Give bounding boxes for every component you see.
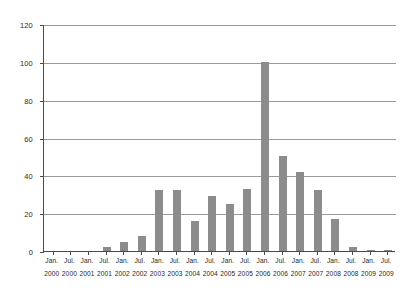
bar xyxy=(243,189,251,251)
bar-slot xyxy=(186,25,204,251)
x-axis-tick xyxy=(387,251,388,255)
bar-slot xyxy=(256,25,274,251)
x-axis-tick-label: Jan.2005 xyxy=(219,256,237,279)
x-label-year: 2002 xyxy=(113,269,131,280)
x-axis-tick-label: Jan.2008 xyxy=(325,256,343,279)
bar xyxy=(367,250,375,251)
x-label-year: 2000 xyxy=(43,269,61,280)
x-axis-tick-label: Jul.2003 xyxy=(166,256,184,279)
x-label-year: 2004 xyxy=(201,269,219,280)
y-axis-tick-label: 40 xyxy=(0,172,33,181)
x-label-year: 2006 xyxy=(272,269,290,280)
bar xyxy=(279,156,287,251)
x-axis-tick-label: Jul.2004 xyxy=(201,256,219,279)
x-label-year: 2007 xyxy=(307,269,325,280)
y-axis-tick xyxy=(40,25,44,26)
bar-slot xyxy=(98,25,116,251)
bar-chart: 020406080100120 Jan.2000Jul.2000Jan.2001… xyxy=(0,0,416,291)
x-label-year: 2005 xyxy=(219,269,237,280)
x-axis-tick-label: Jul.2000 xyxy=(61,256,79,279)
x-axis-tick-label: Jul.2007 xyxy=(307,256,325,279)
bar-slot xyxy=(327,25,345,251)
bar xyxy=(191,221,199,251)
x-label-month: Jan. xyxy=(325,256,343,267)
bar xyxy=(331,219,339,251)
bar xyxy=(261,62,269,251)
y-axis-tick xyxy=(40,139,44,140)
y-axis-tick-label: 0 xyxy=(0,248,33,257)
x-label-month: Jul. xyxy=(377,256,395,267)
x-axis-tick-label: Jul.2006 xyxy=(272,256,290,279)
bar xyxy=(120,242,128,251)
x-axis-labels: Jan.2000Jul.2000Jan.2001Jul.2001Jan.2002… xyxy=(43,256,395,288)
x-label-year: 2008 xyxy=(342,269,360,280)
x-axis-tick xyxy=(141,251,142,255)
x-axis-tick-label: Jan.2002 xyxy=(113,256,131,279)
x-label-month: Jan. xyxy=(113,256,131,267)
x-label-month: Jan. xyxy=(78,256,96,267)
bar xyxy=(138,236,146,251)
bar-slot xyxy=(63,25,81,251)
bar-slot xyxy=(133,25,151,251)
y-axis-tick-label: 20 xyxy=(0,210,33,219)
bar-slot xyxy=(151,25,169,251)
x-axis-tick xyxy=(106,251,107,255)
bar-slot xyxy=(239,25,257,251)
x-axis-tick-label: Jul.2001 xyxy=(96,256,114,279)
x-axis-tick xyxy=(229,251,230,255)
x-label-year: 2000 xyxy=(61,269,79,280)
x-label-month: Jan. xyxy=(219,256,237,267)
bar xyxy=(384,250,392,251)
bar xyxy=(314,190,322,251)
y-axis-tick xyxy=(40,101,44,102)
x-label-month: Jan. xyxy=(149,256,167,267)
x-axis-tick xyxy=(123,251,124,255)
x-label-month: Jul. xyxy=(166,256,184,267)
x-label-year: 2001 xyxy=(96,269,114,280)
x-axis-tick-label: Jan.2001 xyxy=(78,256,96,279)
bar xyxy=(155,190,163,251)
bar-slot xyxy=(221,25,239,251)
x-label-year: 2001 xyxy=(78,269,96,280)
y-axis-tick xyxy=(40,214,44,215)
x-axis-tick xyxy=(53,251,54,255)
x-axis-tick xyxy=(194,251,195,255)
x-axis-tick-label: Jan.2006 xyxy=(254,256,272,279)
x-axis-tick xyxy=(352,251,353,255)
x-axis-tick-label: Jul.2008 xyxy=(342,256,360,279)
y-axis-tick-label: 60 xyxy=(0,134,33,143)
x-axis-tick xyxy=(88,251,89,255)
x-axis-tick-label: Jul.2002 xyxy=(131,256,149,279)
x-axis-tick xyxy=(282,251,283,255)
bar-slot xyxy=(274,25,292,251)
bar xyxy=(296,172,304,251)
y-axis-tick-label: 100 xyxy=(0,58,33,67)
x-label-month: Jul. xyxy=(201,256,219,267)
bar-slot xyxy=(45,25,63,251)
x-label-year: 2007 xyxy=(289,269,307,280)
bar-slot xyxy=(362,25,380,251)
x-label-month: Jan. xyxy=(289,256,307,267)
x-label-year: 2003 xyxy=(166,269,184,280)
y-axis-tick xyxy=(40,252,44,253)
y-axis-tick-label: 120 xyxy=(0,21,33,30)
bar xyxy=(103,247,111,251)
x-label-month: Jan. xyxy=(184,256,202,267)
x-axis-tick-label: Jul.2005 xyxy=(237,256,255,279)
x-label-month: Jan. xyxy=(43,256,61,267)
x-label-year: 2008 xyxy=(325,269,343,280)
x-axis-tick-label: Jan.2009 xyxy=(360,256,378,279)
x-axis-tick xyxy=(70,251,71,255)
bar-slot xyxy=(115,25,133,251)
x-axis-tick xyxy=(317,251,318,255)
bar-series xyxy=(45,25,395,251)
x-label-month: Jan. xyxy=(360,256,378,267)
bar-slot xyxy=(309,25,327,251)
y-axis-tick xyxy=(40,63,44,64)
bar-slot xyxy=(80,25,98,251)
x-label-year: 2004 xyxy=(184,269,202,280)
x-label-month: Jul. xyxy=(131,256,149,267)
bar-slot xyxy=(168,25,186,251)
x-axis-tick xyxy=(176,251,177,255)
x-axis-tick-label: Jan.2003 xyxy=(149,256,167,279)
